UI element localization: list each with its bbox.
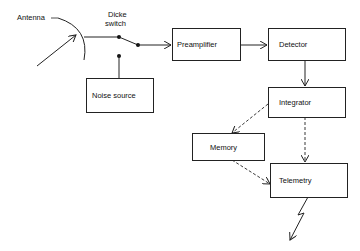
noise-source-block: Noise source bbox=[86, 78, 154, 113]
antenna-label: Antenna bbox=[17, 13, 45, 22]
integrator-block: Integrator bbox=[268, 87, 346, 118]
incoming-signal-arrow bbox=[37, 35, 76, 66]
memory-block: Memory bbox=[192, 133, 265, 161]
switch-blade bbox=[119, 37, 138, 45]
detector-block: Detector bbox=[268, 28, 346, 61]
telemetry-block: Telemetry bbox=[270, 163, 348, 198]
preamplifier-block: Preamplifier bbox=[172, 28, 241, 61]
transmit-lightning-arrow bbox=[290, 197, 308, 240]
dicke-label-line1: Dicke bbox=[108, 10, 127, 19]
dicke-label-line2: switch bbox=[105, 19, 126, 28]
